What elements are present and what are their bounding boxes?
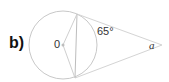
diagram: b) 0 65° a	[0, 0, 169, 82]
unknown-angle-label: a	[149, 40, 155, 51]
part-label: b)	[9, 35, 24, 51]
chord	[75, 14, 77, 78]
given-angle-label: 65°	[97, 26, 114, 37]
lower-radius	[63, 45, 75, 78]
centre-point	[62, 44, 65, 47]
geometry-figure	[0, 0, 169, 82]
upper-radius	[63, 14, 77, 45]
centre-label: 0	[54, 39, 60, 50]
